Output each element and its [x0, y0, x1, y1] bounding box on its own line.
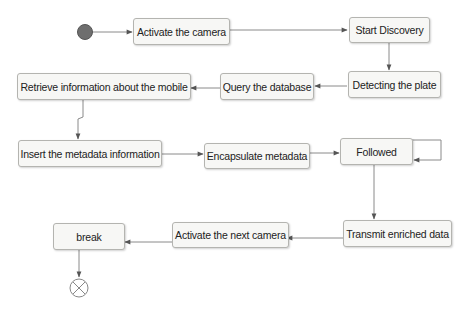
- node-label: Query the database: [223, 81, 312, 93]
- node-label: Retrieve information about the mobile: [20, 81, 187, 93]
- node-break[interactable]: break: [53, 223, 125, 250]
- node-transmit-data[interactable]: Transmit enriched data: [343, 220, 452, 247]
- node-label: break: [76, 231, 101, 243]
- node-query-database[interactable]: Query the database: [220, 73, 314, 100]
- edge-followed-self-loop: [412, 140, 441, 160]
- node-label: Followed: [356, 146, 396, 158]
- initial-node: [77, 24, 93, 40]
- node-label: Activate the next camera: [175, 229, 286, 241]
- node-retrieve-info[interactable]: Retrieve information about the mobile: [17, 73, 191, 100]
- final-node-icon: [69, 278, 89, 298]
- node-followed[interactable]: Followed: [340, 138, 413, 165]
- node-label: Insert the metadata information: [20, 148, 159, 160]
- node-detecting-plate[interactable]: Detecting the plate: [348, 71, 441, 98]
- node-label: Detecting the plate: [353, 79, 437, 91]
- node-activate-next-camera[interactable]: Activate the next camera: [172, 222, 289, 248]
- node-label: Start Discovery: [355, 24, 423, 36]
- node-activate-camera[interactable]: Activate the camera: [133, 18, 230, 45]
- edge-retrieve-to-insert: [78, 99, 83, 139]
- node-label: Activate the camera: [137, 26, 226, 38]
- node-insert-metadata[interactable]: Insert the metadata information: [18, 140, 162, 167]
- activity-diagram: Activate the camera Start Discovery Dete…: [0, 0, 467, 312]
- node-encapsulate-metadata[interactable]: Encapsulate metadata: [204, 143, 310, 169]
- node-label: Transmit enriched data: [346, 228, 449, 240]
- node-label: Encapsulate metadata: [207, 150, 308, 162]
- node-start-discovery[interactable]: Start Discovery: [349, 17, 430, 43]
